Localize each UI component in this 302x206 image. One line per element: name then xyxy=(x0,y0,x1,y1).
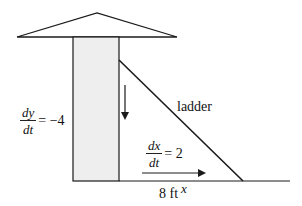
ladder-diagram xyxy=(0,0,302,206)
dy-dt-equation: dy dt = −4 xyxy=(20,106,65,136)
dx-dt-value: = 2 xyxy=(164,146,182,162)
ladder-label: ladder xyxy=(177,100,212,114)
dy-dt-value: = −4 xyxy=(38,113,64,129)
dt-denominator: dt xyxy=(147,154,161,169)
dx-numerator: dx xyxy=(146,139,162,153)
building-wall xyxy=(73,37,119,181)
dt-denominator: dt xyxy=(21,121,35,136)
dx-dt-equation: dx dt = 2 xyxy=(146,139,183,169)
base-distance-label: 8 ft xyxy=(159,187,178,201)
roof xyxy=(17,13,177,37)
x-variable-label: x xyxy=(181,182,187,195)
dy-numerator: dy xyxy=(20,106,36,120)
